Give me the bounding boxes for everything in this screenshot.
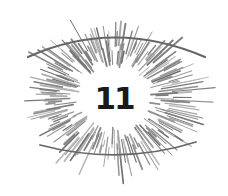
ray-line <box>151 93 177 95</box>
ray-line <box>46 103 55 104</box>
eye-burst-illustration: 11 <box>0 0 228 196</box>
ray-line <box>134 43 136 49</box>
ray-line <box>155 98 174 99</box>
ray-line <box>150 103 159 104</box>
ray-line <box>103 49 107 67</box>
ray-line <box>112 128 113 144</box>
ray-line <box>108 147 109 159</box>
ray-line <box>104 145 107 167</box>
ray-line <box>169 75 192 82</box>
ray-line <box>45 99 69 100</box>
ray-line <box>73 112 82 116</box>
ray-line <box>170 102 179 103</box>
ray-line <box>141 142 158 170</box>
ray-line <box>104 140 105 146</box>
ray-line <box>115 22 116 46</box>
ray-line <box>36 94 56 95</box>
center-number: 11 <box>84 78 144 118</box>
ray-line <box>168 110 203 118</box>
ray-line <box>119 22 121 46</box>
ray-line <box>112 50 113 64</box>
